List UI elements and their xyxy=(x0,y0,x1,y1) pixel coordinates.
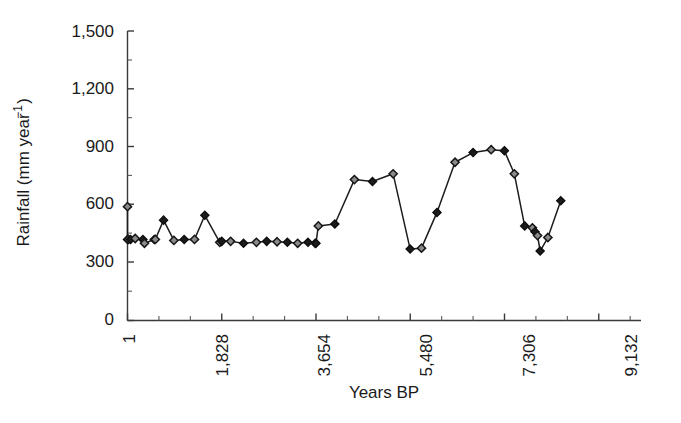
data-point-marker xyxy=(201,211,209,219)
data-point-marker xyxy=(252,238,260,246)
data-point-marker xyxy=(406,245,414,253)
data-point-marker xyxy=(500,147,508,155)
y-tick-label-300: 300 xyxy=(86,252,114,271)
x-tick-label-1: 1 xyxy=(120,334,139,343)
data-point-marker xyxy=(170,236,178,244)
chart-svg: Rainfall (mm year −1 ) 1,500 1,200 900 6… xyxy=(0,0,681,423)
data-point-marker xyxy=(331,220,339,228)
data-point-marker xyxy=(417,244,425,252)
data-point-marker xyxy=(263,237,271,245)
data-point-marker xyxy=(190,235,198,243)
y-tick-marks xyxy=(128,31,135,321)
data-point-marker xyxy=(283,238,291,246)
x-tick-label-3654: 3,654 xyxy=(315,334,334,377)
data-point-marker xyxy=(304,238,312,246)
data-point-marker xyxy=(368,177,376,185)
x-tick-marks xyxy=(128,314,631,321)
x-tick-label-1828: 1,828 xyxy=(213,334,232,377)
x-tick-label-9132: 9,132 xyxy=(622,334,641,377)
data-point-marker xyxy=(451,158,459,166)
y-tick-label-1200: 1,200 xyxy=(71,79,114,98)
data-point-marker xyxy=(536,247,544,255)
data-point-marker xyxy=(294,239,302,247)
y-tick-label-0: 0 xyxy=(105,310,114,329)
data-point-marker xyxy=(227,237,235,245)
data-point-marker xyxy=(469,148,477,156)
rainfall-series-line xyxy=(128,150,561,251)
data-point-marker xyxy=(487,146,495,154)
rainfall-time-series-figure: Rainfall (mm year −1 ) 1,500 1,200 900 6… xyxy=(0,0,681,423)
y-axis-title: Rainfall (mm year xyxy=(14,113,33,247)
data-point-marker xyxy=(544,233,552,241)
data-point-marker xyxy=(273,238,281,246)
x-axis-title: Years BP xyxy=(349,383,419,402)
data-point-marker xyxy=(389,170,397,178)
data-point-marker xyxy=(510,170,518,178)
data-point-marker xyxy=(314,222,322,230)
data-point-marker xyxy=(239,239,247,247)
y-tick-label-600: 600 xyxy=(86,194,114,213)
data-point-marker xyxy=(180,235,188,243)
x-tick-label-5480: 5,480 xyxy=(417,334,436,377)
y-tick-label-900: 900 xyxy=(86,137,114,156)
data-point-marker xyxy=(350,176,358,184)
y-axis-title-superscript: −1 xyxy=(11,105,25,119)
data-point-marker xyxy=(521,222,529,230)
y-tick-label-1500: 1,500 xyxy=(71,22,114,41)
data-point-marker xyxy=(433,208,441,216)
data-point-marker xyxy=(557,197,565,205)
data-point-marker xyxy=(159,216,167,224)
x-tick-label-7306: 7,306 xyxy=(520,334,539,377)
y-axis-title-close: ) xyxy=(14,98,33,104)
